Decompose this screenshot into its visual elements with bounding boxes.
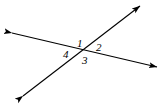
angle-label-1: 1 [77, 38, 83, 49]
angle-label-3: 3 [82, 55, 88, 66]
intersecting-lines-svg [0, 0, 168, 105]
angle-label-4: 4 [63, 49, 69, 60]
geometry-figure: 1 2 3 4 [0, 0, 168, 105]
line-steep [23, 6, 140, 96]
angle-label-2: 2 [96, 42, 102, 53]
